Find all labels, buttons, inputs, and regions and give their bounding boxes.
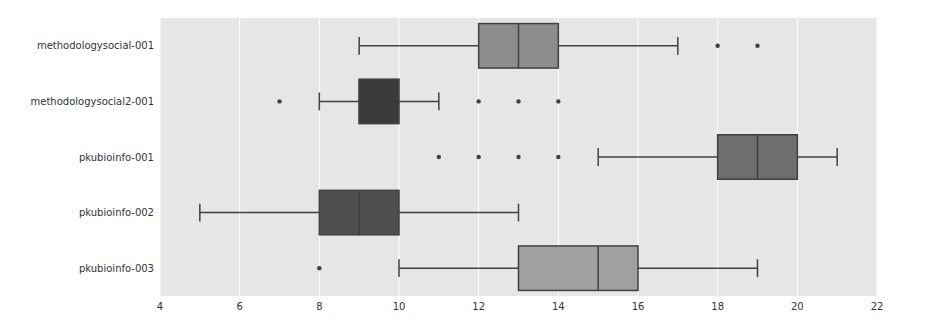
x-tick-label: 20	[791, 301, 804, 312]
outlier-point	[715, 44, 719, 48]
iqr-box	[359, 79, 399, 123]
y-tick-label: pkubioinfo-003	[79, 263, 154, 274]
box-plot-chart: methodologysocial-001methodologysocial2-…	[0, 0, 928, 325]
outlier-point	[556, 99, 560, 103]
x-tick-label: 4	[157, 301, 163, 312]
outlier-point	[755, 44, 759, 48]
x-tick-label: 16	[632, 301, 645, 312]
outlier-point	[476, 155, 480, 159]
x-tick-label: 6	[236, 301, 242, 312]
outlier-point	[476, 99, 480, 103]
outlier-point	[516, 155, 520, 159]
x-axis-labels: 46810121416182022	[157, 301, 884, 312]
x-tick-label: 12	[472, 301, 485, 312]
y-tick-label: pkubioinfo-002	[79, 207, 154, 218]
x-tick-label: 18	[711, 301, 724, 312]
outlier-point	[556, 155, 560, 159]
outlier-point	[516, 99, 520, 103]
x-tick-label: 8	[316, 301, 322, 312]
x-tick-label: 10	[393, 301, 406, 312]
outlier-point	[277, 99, 281, 103]
y-tick-label: methodologysocial-001	[37, 40, 154, 51]
iqr-box	[519, 246, 639, 290]
x-tick-label: 22	[871, 301, 884, 312]
outlier-point	[317, 266, 321, 270]
x-tick-label: 14	[552, 301, 565, 312]
outlier-point	[437, 155, 441, 159]
y-tick-label: pkubioinfo-001	[79, 152, 154, 163]
y-tick-label: methodologysocial2-001	[31, 96, 154, 107]
y-axis-labels: methodologysocial-001methodologysocial2-…	[31, 40, 154, 273]
